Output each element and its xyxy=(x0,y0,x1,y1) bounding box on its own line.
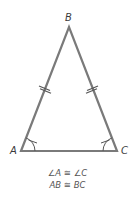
triangle-abc xyxy=(21,27,117,151)
isosceles-triangle-figure: B A C ∠A ≅ ∠C AB ≅ BC xyxy=(0,0,135,200)
vertex-label-b: B xyxy=(65,13,72,23)
angle-mark-a xyxy=(26,138,37,151)
angle-mark-c xyxy=(101,138,112,151)
vertex-label-a: A xyxy=(10,146,17,156)
caption-angle-congruence: ∠A ≅ ∠C xyxy=(0,169,135,178)
caption-side-congruence: AB ≅ BC xyxy=(0,181,135,190)
vertex-label-c: C xyxy=(121,146,128,156)
